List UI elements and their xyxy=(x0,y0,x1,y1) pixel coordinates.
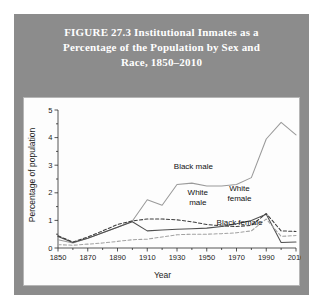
svg-text:0: 0 xyxy=(48,244,52,253)
svg-text:1970: 1970 xyxy=(228,253,245,262)
chart-panel: 0123451850187018901910193019501970199020… xyxy=(23,97,300,286)
svg-text:1890: 1890 xyxy=(109,253,126,262)
figure-title-line-1: FIGURE 27.3 Institutional Inmates as a xyxy=(14,25,309,40)
svg-text:1990: 1990 xyxy=(258,253,275,262)
x-axis-label: Year xyxy=(24,270,301,280)
svg-text:1870: 1870 xyxy=(79,253,96,262)
svg-text:1930: 1930 xyxy=(169,253,186,262)
figure-title-line-3: Race, 1850–2010 xyxy=(14,55,309,70)
svg-text:1850: 1850 xyxy=(50,253,67,262)
svg-text:4: 4 xyxy=(48,133,52,142)
figure-title-line-2: Percentage of the Population by Sex and xyxy=(14,40,309,55)
svg-text:1950: 1950 xyxy=(198,253,215,262)
svg-text:2: 2 xyxy=(48,188,52,197)
series-label-black-male: Black male xyxy=(163,162,223,172)
svg-text:5: 5 xyxy=(48,106,52,115)
svg-text:1: 1 xyxy=(48,216,52,225)
svg-text:3: 3 xyxy=(48,161,52,170)
series-label-black-female: Black female xyxy=(209,218,269,228)
series-label-white-female: Whitefemale xyxy=(209,184,269,203)
figure-title: FIGURE 27.3 Institutional Inmates as a P… xyxy=(14,25,309,70)
y-axis-label: Percentage of population xyxy=(27,115,37,235)
svg-text:1910: 1910 xyxy=(139,253,156,262)
figure-container: FIGURE 27.3 Institutional Inmates as a P… xyxy=(14,14,309,295)
svg-text:2010: 2010 xyxy=(288,253,301,262)
